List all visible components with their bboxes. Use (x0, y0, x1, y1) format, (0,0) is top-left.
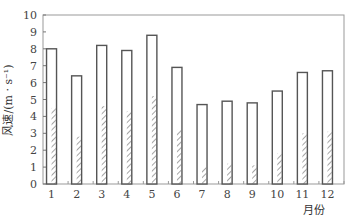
x-tick-label: 9 (249, 188, 256, 201)
y-tick-label: 8 (30, 43, 37, 56)
bar-hatched (252, 165, 256, 184)
y-tick-label: 6 (30, 77, 37, 90)
y-tick-label: 10 (23, 9, 37, 22)
y-tick-label: 1 (30, 161, 37, 174)
x-tick-label: 11 (295, 188, 309, 201)
y-tick-label: 2 (30, 144, 37, 157)
bar-hatched (302, 133, 306, 184)
bar-hatched (152, 96, 156, 184)
bar-hatched (202, 167, 206, 184)
x-tick-label: 5 (148, 188, 155, 201)
bar-chart: 012345678910123456789101112 风速/(m · s⁻¹)… (0, 0, 353, 220)
x-tick-label: 1 (48, 188, 55, 201)
bar-hatched (327, 132, 331, 184)
x-axis-label: 月份 (303, 204, 325, 217)
y-tick-label: 0 (30, 178, 37, 191)
bar-hatched (102, 106, 106, 184)
bar-hatched (177, 130, 181, 184)
y-axis-label: 风速/(m · s⁻¹) (2, 64, 15, 135)
x-tick-label: 12 (320, 188, 334, 201)
x-tick-label: 10 (270, 188, 284, 201)
y-tick-label: 7 (30, 60, 37, 73)
y-tick-label: 9 (30, 26, 37, 39)
bar-hatched (127, 111, 131, 184)
bar-hatched (77, 137, 81, 184)
x-tick-label: 2 (73, 188, 80, 201)
bar-hatched (277, 154, 281, 184)
x-tick-label: 6 (173, 188, 180, 201)
x-tick-label: 3 (98, 188, 105, 201)
x-tick-label: 8 (224, 188, 231, 201)
plot-area: 012345678910123456789101112 (23, 9, 344, 201)
y-tick-label: 5 (30, 94, 37, 107)
x-tick-label: 7 (199, 188, 206, 201)
x-tick-label: 4 (123, 188, 130, 201)
y-tick-label: 3 (30, 127, 37, 140)
y-tick-label: 4 (30, 110, 37, 123)
bar-hatched (227, 164, 231, 184)
bar-hatched (52, 108, 56, 184)
